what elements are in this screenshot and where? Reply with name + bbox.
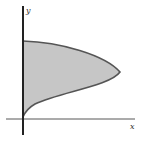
x-axis-label: x bbox=[130, 122, 135, 131]
shaded-region bbox=[23, 41, 120, 117]
diagram-canvas: y x bbox=[0, 0, 143, 143]
y-axis-label: y bbox=[25, 6, 31, 15]
